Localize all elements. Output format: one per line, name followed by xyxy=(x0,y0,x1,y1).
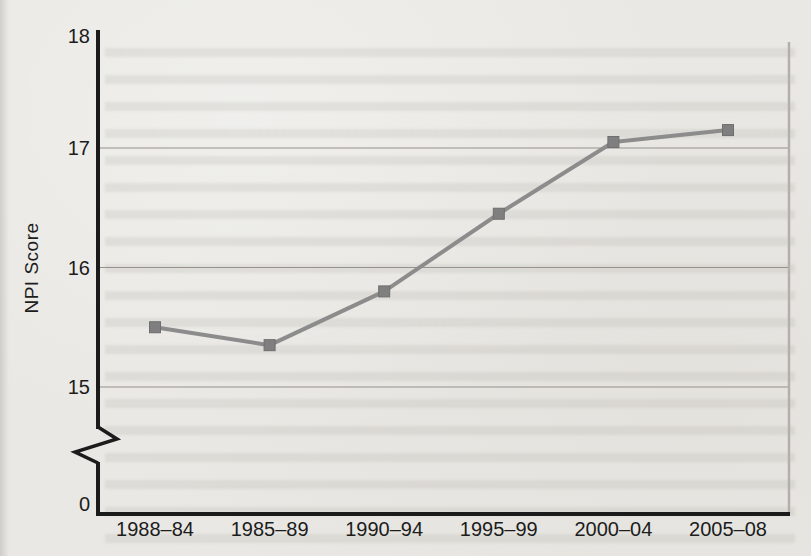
data-point-marker-5 xyxy=(723,125,734,136)
scanned-book-page: NPI Score 1817161501988–841985–891990–94… xyxy=(0,0,811,556)
y-tick-label-16: 16 xyxy=(68,257,90,279)
data-point-marker-0 xyxy=(150,322,161,333)
x-tick-label-1: 1985–89 xyxy=(231,518,309,540)
data-point-marker-1 xyxy=(264,340,275,351)
data-point-marker-2 xyxy=(379,286,390,297)
npi-score-series-line xyxy=(155,130,728,345)
x-tick-label-5: 2005–08 xyxy=(689,518,767,540)
y-tick-label-0: 0 xyxy=(79,493,90,515)
npi-score-line-chart: 1817161501988–841985–891990–941995–99200… xyxy=(0,0,811,556)
y-tick-label-15: 15 xyxy=(68,376,90,398)
x-tick-label-3: 1995–99 xyxy=(460,518,538,540)
y-axis-break-icon xyxy=(75,427,117,463)
y-tick-label-17: 17 xyxy=(68,137,90,159)
x-tick-label-4: 2000–04 xyxy=(574,518,652,540)
x-tick-label-2: 1990–94 xyxy=(345,518,423,540)
y-tick-label-18: 18 xyxy=(68,25,90,47)
data-point-marker-3 xyxy=(493,208,504,219)
x-tick-label-0: 1988–84 xyxy=(116,518,194,540)
data-point-marker-4 xyxy=(608,137,619,148)
